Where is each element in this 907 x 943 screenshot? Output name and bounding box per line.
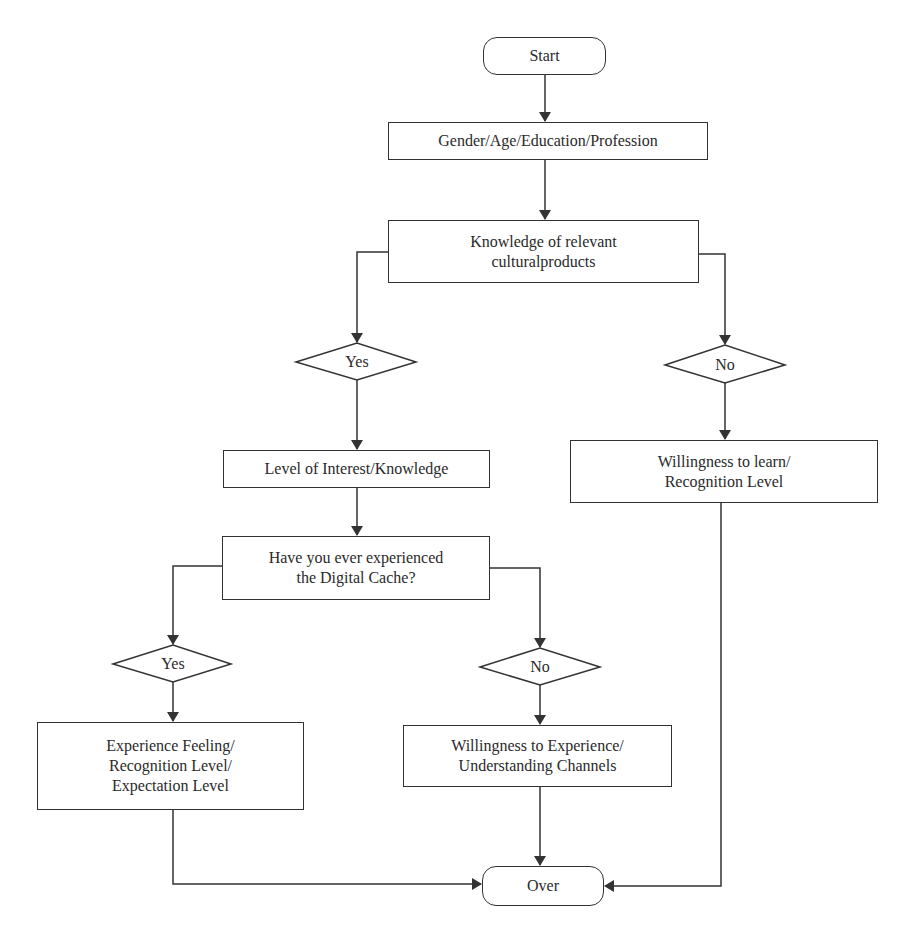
experience-feeling-label: Experience Feeling/ Recognition Level/ E…	[106, 736, 234, 796]
edge-knowledge-yes1	[357, 252, 388, 342]
willingness-experience-box: Willingness to Experience/ Understanding…	[403, 725, 672, 787]
over-terminal: Over	[482, 866, 604, 906]
start-label: Start	[529, 46, 559, 66]
experience-feeling-box: Experience Feeling/ Recognition Level/ E…	[37, 722, 304, 810]
willingness-learn-label: Willingness to learn/ Recognition Level	[658, 452, 791, 492]
knowledge-box: Knowledge of relevant culturalproducts	[388, 220, 699, 283]
no-1-label: No	[685, 356, 765, 374]
knowledge-label: Knowledge of relevant culturalproducts	[470, 232, 617, 272]
over-label: Over	[527, 876, 559, 896]
edge-experienced-yes2	[173, 566, 222, 644]
no-2-label: No	[500, 658, 580, 676]
edge-willinglearn-over	[605, 503, 721, 886]
experienced-question-label: Have you ever experienced the Digital Ca…	[269, 548, 444, 588]
edge-knowledge-no1	[699, 254, 725, 344]
yes-2-label: Yes	[133, 655, 213, 673]
willingness-experience-label: Willingness to Experience/ Understanding…	[451, 736, 624, 776]
edge-experienced-no2	[490, 568, 540, 647]
demographics-label: Gender/Age/Education/Profession	[438, 131, 658, 151]
start-terminal: Start	[483, 37, 606, 75]
experienced-question-box: Have you ever experienced the Digital Ca…	[222, 536, 490, 600]
interest-label: Level of Interest/Knowledge	[265, 459, 449, 479]
edge-experiencefeeling-over	[173, 810, 481, 884]
demographics-box: Gender/Age/Education/Profession	[388, 122, 708, 160]
yes-1-label: Yes	[317, 353, 397, 371]
interest-box: Level of Interest/Knowledge	[223, 450, 490, 488]
willingness-learn-box: Willingness to learn/ Recognition Level	[570, 440, 878, 503]
